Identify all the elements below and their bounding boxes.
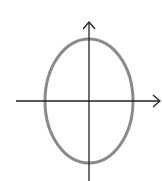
ellipse-diagram [0,0,162,181]
